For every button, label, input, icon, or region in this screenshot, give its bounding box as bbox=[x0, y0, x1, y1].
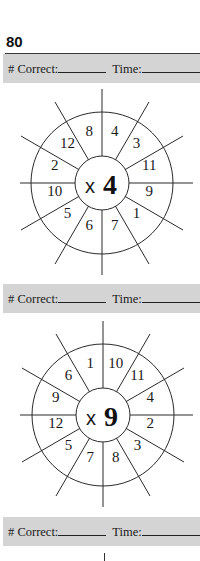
time-label: Time: bbox=[112, 525, 141, 540]
correct-label: # Correct: bbox=[8, 292, 58, 307]
wheel-number: 4 bbox=[147, 389, 155, 405]
score-bar-1: # Correct: Time: bbox=[3, 54, 200, 83]
wheel-number: 12 bbox=[48, 415, 63, 431]
page-number: 80 bbox=[6, 34, 23, 49]
wheel-number: 7 bbox=[87, 449, 95, 465]
multiplier-prefix: x bbox=[85, 175, 95, 197]
wheel-number: 2 bbox=[147, 415, 155, 431]
wheel-number: 3 bbox=[133, 135, 141, 151]
wheel-number: 6 bbox=[86, 217, 94, 233]
wheel-number: 2 bbox=[51, 157, 59, 173]
wheel-number: 6 bbox=[65, 367, 73, 383]
center-circle bbox=[76, 388, 130, 442]
wheel-number: 12 bbox=[60, 135, 75, 151]
wheel-number: 1 bbox=[87, 355, 95, 371]
wheel-number: 5 bbox=[64, 205, 72, 221]
wheel-number: 5 bbox=[65, 437, 73, 453]
wheel-number: 3 bbox=[134, 437, 142, 453]
time-blank[interactable] bbox=[142, 534, 200, 536]
multiplier-prefix: x bbox=[86, 407, 96, 429]
correct-blank[interactable] bbox=[58, 71, 106, 73]
multiplication-wheel-1: 4 3 11 9 1 7 6 5 10 2 12 8 x 4 bbox=[0, 83, 200, 283]
wheel-number: 9 bbox=[52, 389, 60, 405]
wheel-number: 9 bbox=[146, 183, 154, 199]
wheel-number: 11 bbox=[130, 367, 144, 383]
score-bar-2: # Correct: Time: bbox=[3, 284, 200, 313]
time-label: Time: bbox=[112, 292, 141, 307]
multiplier-value: 4 bbox=[103, 169, 117, 200]
correct-label: # Correct: bbox=[8, 525, 58, 540]
correct-label: # Correct: bbox=[8, 62, 58, 77]
time-blank[interactable] bbox=[142, 301, 200, 303]
wheel-number: 11 bbox=[142, 157, 156, 173]
wheel-number: 8 bbox=[86, 123, 94, 139]
time-blank[interactable] bbox=[142, 71, 200, 73]
correct-blank[interactable] bbox=[58, 534, 106, 536]
wheel-number: 10 bbox=[47, 183, 62, 199]
wheel-number: 10 bbox=[108, 355, 123, 371]
wheel-number: 8 bbox=[112, 449, 120, 465]
time-label: Time: bbox=[112, 62, 141, 77]
center-circle bbox=[75, 156, 129, 210]
wheel-number: 4 bbox=[111, 123, 119, 139]
wheel-number: 7 bbox=[111, 217, 119, 233]
next-wheel-spoke-tip bbox=[104, 553, 105, 561]
wheel-number: 1 bbox=[133, 205, 141, 221]
multiplier-value: 9 bbox=[104, 401, 118, 432]
score-bar-3: # Correct: Time: bbox=[3, 517, 200, 546]
multiplication-wheel-2: 10 11 4 2 3 8 7 5 12 9 6 1 x 9 bbox=[0, 315, 200, 515]
correct-blank[interactable] bbox=[58, 301, 106, 303]
